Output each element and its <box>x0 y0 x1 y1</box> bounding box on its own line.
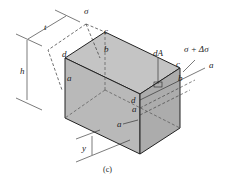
figure-caption: (c) <box>103 165 112 174</box>
sigma-delta-leader <box>183 60 195 72</box>
label-c-top: c <box>104 26 108 36</box>
label-a-front-low: a <box>117 119 122 129</box>
label-y: y <box>81 143 86 153</box>
label-t: t <box>44 22 47 32</box>
stress-element-diagram: t h y dA σ σ + Δσ a c b d a c b d a a (c… <box>0 0 227 177</box>
label-d-top: d <box>62 49 67 59</box>
label-h: h <box>20 66 25 76</box>
dim-t-line <box>28 16 66 39</box>
label-b-right: b <box>178 73 183 83</box>
label-c-right: c <box>176 59 180 69</box>
label-sigma-plus-delta: σ + Δσ <box>184 44 209 54</box>
dim-t-ext2 <box>16 34 42 46</box>
label-sigma: σ <box>84 6 89 16</box>
label-dA: dA <box>153 48 164 58</box>
dim-h-ext <box>16 98 42 110</box>
label-b-top: b <box>104 44 109 54</box>
label-a-front: a <box>132 104 137 114</box>
label-a-right: a <box>209 60 214 70</box>
dim-y-ext1 <box>76 130 100 139</box>
label-a-top-left: a <box>67 73 72 83</box>
